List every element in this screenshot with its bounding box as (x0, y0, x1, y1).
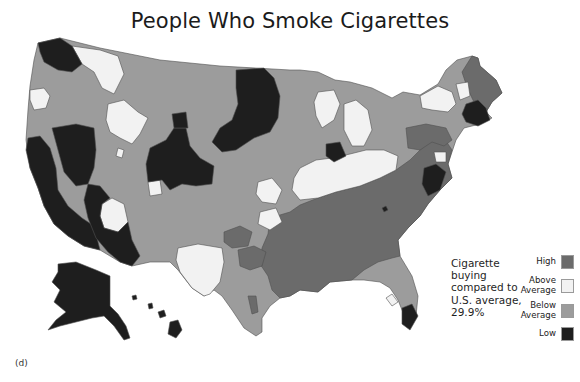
us-choropleth-map (0, 0, 580, 382)
legend-swatch-above-average (561, 279, 574, 293)
region-hawaii-big-island-low (168, 320, 182, 338)
region-dc-low (422, 164, 446, 196)
legend-swatch-high (561, 255, 574, 269)
caption-line: buying (451, 269, 522, 281)
region-alaska-low (48, 262, 130, 340)
legend-item-below-average: Below Average (521, 301, 574, 320)
caption-line: compared to (451, 281, 522, 293)
legend-label: Low (539, 329, 556, 339)
map-title: People Who Smoke Cigarettes (0, 9, 580, 33)
region-hawaii-kauai-low (132, 295, 137, 300)
legend-label: Average (521, 311, 556, 321)
legend-label: Average (521, 286, 556, 296)
region-co-pocket-above (148, 180, 162, 196)
caption-line: Cigarette (451, 257, 522, 269)
legend-swatch-low (561, 327, 574, 341)
figure-label: (d) (15, 358, 28, 368)
legend-caption: Cigarette buying compared to U.S. averag… (451, 257, 522, 318)
region-hawaii-maui-low (158, 310, 166, 318)
legend-item-above-average: Above Average (521, 276, 574, 295)
legend-item-high: High (536, 255, 574, 269)
region-wyoming-low (172, 112, 188, 128)
legend-swatch-below-average (561, 304, 574, 318)
legend-item-low: Low (539, 327, 574, 341)
region-dc-pocket-above (434, 152, 446, 162)
caption-line: U.S. average, (451, 294, 522, 306)
caption-line: 29.9% (451, 306, 522, 318)
region-hawaii-oahu-low (148, 303, 153, 309)
legend-label: High (536, 257, 556, 267)
